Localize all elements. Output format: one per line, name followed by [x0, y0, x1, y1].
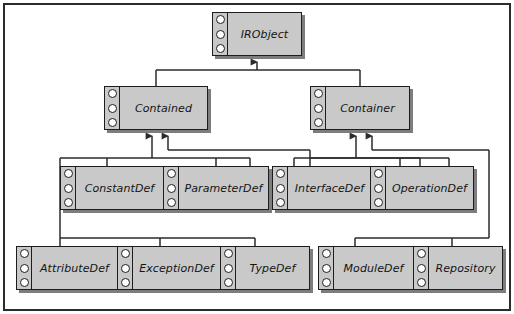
port-gutter: [118, 247, 133, 289]
port-circle-icon: [322, 278, 331, 287]
port-gutter: [311, 87, 326, 129]
class-box-body: Repository: [429, 247, 502, 289]
port-circle-icon: [108, 104, 117, 113]
class-name-label: ModuleDef: [343, 262, 403, 275]
class-name-label: Repository: [436, 262, 496, 275]
port-circle-icon: [314, 89, 323, 98]
port-circle-icon: [374, 184, 383, 193]
class-box-moduledef[interactable]: ModuleDef: [318, 246, 414, 290]
port-gutter: [414, 247, 429, 289]
port-gutter: [17, 247, 32, 289]
class-box-contained[interactable]: Contained: [104, 86, 208, 130]
class-box-body: AttributeDef: [32, 247, 117, 289]
class-name-label: Container: [340, 102, 395, 115]
class-name-label: IRObject: [241, 28, 289, 41]
class-box-body: InterfaceDef: [288, 167, 371, 209]
port-gutter: [213, 13, 228, 55]
port-circle-icon: [108, 89, 117, 98]
port-gutter: [371, 167, 386, 209]
class-name-label: Contained: [135, 102, 192, 115]
class-box-body: ConstantDef: [76, 167, 163, 209]
class-box-container[interactable]: Container: [310, 86, 410, 130]
port-gutter: [61, 167, 76, 209]
port-circle-icon: [121, 249, 130, 258]
port-circle-icon: [417, 278, 426, 287]
port-circle-icon: [108, 118, 117, 127]
class-box-body: OperationDef: [386, 167, 473, 209]
port-circle-icon: [417, 264, 426, 273]
class-name-label: ParameterDef: [184, 182, 262, 195]
port-circle-icon: [224, 249, 233, 258]
class-name-label: TypeDef: [250, 262, 296, 275]
port-circle-icon: [322, 264, 331, 273]
port-gutter: [105, 87, 120, 129]
port-circle-icon: [64, 184, 73, 193]
port-circle-icon: [276, 198, 285, 207]
port-circle-icon: [224, 278, 233, 287]
port-circle-icon: [20, 249, 29, 258]
port-gutter: [164, 167, 179, 209]
class-box-repository[interactable]: Repository: [413, 246, 503, 290]
port-circle-icon: [216, 15, 225, 24]
class-box-interfacedef[interactable]: InterfaceDef: [272, 166, 372, 210]
port-circle-icon: [276, 184, 285, 193]
port-circle-icon: [276, 169, 285, 178]
port-circle-icon: [20, 264, 29, 273]
port-circle-icon: [374, 169, 383, 178]
port-circle-icon: [121, 264, 130, 273]
port-circle-icon: [64, 169, 73, 178]
port-circle-icon: [224, 264, 233, 273]
class-box-body: Contained: [120, 87, 207, 129]
diagram-canvas: IRObjectContainedContainerConstantDefPar…: [0, 0, 514, 314]
port-circle-icon: [20, 278, 29, 287]
port-circle-icon: [314, 104, 323, 113]
port-circle-icon: [216, 30, 225, 39]
class-box-body: ModuleDef: [334, 247, 413, 289]
port-circle-icon: [167, 198, 176, 207]
class-box-exceptiondef[interactable]: ExceptionDef: [117, 246, 221, 290]
port-gutter: [221, 247, 236, 289]
port-circle-icon: [314, 118, 323, 127]
port-gutter: [273, 167, 288, 209]
class-box-irobject[interactable]: IRObject: [212, 12, 302, 56]
class-box-constantdef[interactable]: ConstantDef: [60, 166, 164, 210]
class-box-body: TypeDef: [236, 247, 309, 289]
class-box-body: ExceptionDef: [133, 247, 220, 289]
port-gutter: [319, 247, 334, 289]
port-circle-icon: [167, 184, 176, 193]
class-name-label: InterfaceDef: [295, 182, 365, 195]
port-circle-icon: [167, 169, 176, 178]
class-box-body: IRObject: [228, 13, 301, 55]
class-box-parameterdef[interactable]: ParameterDef: [163, 166, 269, 210]
class-name-label: ConstantDef: [85, 182, 155, 195]
class-name-label: ExceptionDef: [139, 262, 214, 275]
class-box-body: Container: [326, 87, 409, 129]
class-box-attributedef[interactable]: AttributeDef: [16, 246, 118, 290]
port-circle-icon: [64, 198, 73, 207]
port-circle-icon: [322, 249, 331, 258]
port-circle-icon: [374, 198, 383, 207]
class-name-label: AttributeDef: [40, 262, 109, 275]
port-circle-icon: [417, 249, 426, 258]
port-circle-icon: [121, 278, 130, 287]
class-box-body: ParameterDef: [179, 167, 268, 209]
class-box-typedef[interactable]: TypeDef: [220, 246, 310, 290]
class-box-operationdef[interactable]: OperationDef: [370, 166, 474, 210]
port-circle-icon: [216, 44, 225, 53]
class-name-label: OperationDef: [392, 182, 467, 195]
